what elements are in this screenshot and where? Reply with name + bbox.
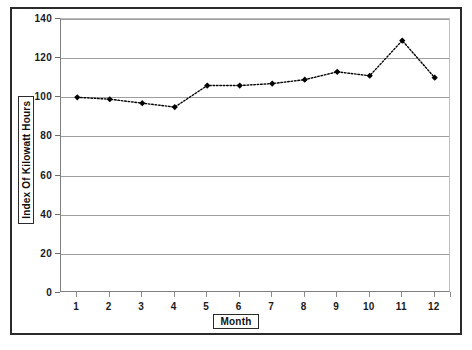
series-line-kilowatt-index — [61, 19, 451, 293]
data-point-marker — [172, 104, 178, 110]
plot-area — [60, 18, 450, 292]
y-axis-title-text: Index Of Kilowatt Hours — [21, 96, 33, 224]
data-point-marker — [302, 77, 308, 83]
data-point-marker — [107, 96, 113, 102]
x-axis-title: Month — [213, 314, 259, 329]
data-point-marker — [269, 80, 275, 86]
data-line — [77, 41, 435, 108]
page-bottom-artifact — [4, 339, 444, 348]
data-point-marker — [237, 82, 243, 88]
data-point-marker — [334, 69, 340, 75]
data-point-marker — [74, 94, 80, 100]
y-axis-title: Index Of Kilowatt Hours — [18, 96, 34, 224]
data-point-marker — [139, 100, 145, 106]
chart-figure: 020406080100120140123456789101112 Index … — [0, 0, 472, 350]
